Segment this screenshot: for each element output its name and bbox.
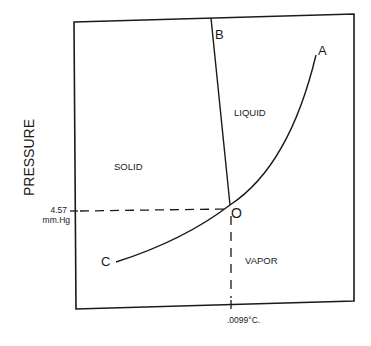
region-solid-label: SOLID (114, 161, 143, 172)
point-b-label: B (215, 27, 224, 42)
pressure-tick-value: 4.57 (50, 205, 67, 215)
fusion-curve-OB (211, 18, 230, 205)
phase-diagram: PRESSURE 4.57 mm.Hg .0099°C. SOLID LIQUI… (0, 0, 371, 346)
triple-point-label: O (231, 205, 242, 221)
point-a-label: A (318, 43, 327, 58)
sublimation-curve-CO (116, 205, 230, 262)
region-liquid-label: LIQUID (234, 107, 266, 118)
y-axis-label: PRESSURE (21, 119, 37, 196)
region-vapor-label: VAPOR (245, 255, 278, 266)
point-c-label: C (101, 254, 110, 269)
temperature-tick-label: .0099°C. (227, 315, 260, 325)
pressure-guide-dashed (80, 209, 226, 211)
pressure-tick-unit: mm.Hg (43, 215, 71, 225)
vaporization-curve-OA (230, 55, 316, 205)
